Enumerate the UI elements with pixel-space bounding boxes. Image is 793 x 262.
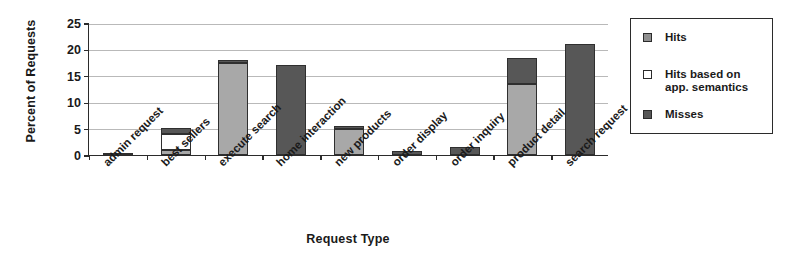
legend-item: Hits (643, 31, 687, 44)
legend-item: Misses (643, 108, 703, 121)
hits-app-semantics-swatch (643, 70, 652, 79)
x-tick-mark (262, 155, 263, 160)
hits-swatch (643, 33, 652, 42)
y-gridline (89, 50, 608, 51)
x-tick-mark (493, 155, 494, 160)
y-axis-title: Percent of Requests (24, 6, 38, 156)
legend-item: Hits based on app. semantics (643, 68, 748, 94)
y-tick-mark (84, 23, 89, 24)
legend-label: Hits (665, 31, 687, 44)
bar-chart: Percent of Requests 0510152025 Request T… (0, 0, 793, 262)
bar-segment (218, 60, 248, 63)
x-tick-mark (205, 155, 206, 160)
y-tick-mark (84, 129, 89, 130)
legend-label: Hits based on app. semantics (665, 68, 748, 94)
x-tick-mark (551, 155, 552, 160)
x-axis-title: Request Type (88, 232, 608, 246)
x-tick-mark (320, 155, 321, 160)
legend-label: Misses (665, 108, 703, 121)
y-tick-label: 15 (51, 70, 81, 84)
chart-legend: HitsHits based on app. semanticsMisses (630, 18, 773, 134)
y-tick-label: 20 (51, 43, 81, 57)
y-tick-label: 10 (51, 96, 81, 110)
y-tick-mark (84, 103, 89, 104)
y-tick-label: 25 (51, 17, 81, 31)
x-tick-mark (436, 155, 437, 160)
x-tick-mark (378, 155, 379, 160)
bar-segment (334, 126, 364, 128)
y-tick-label: 0 (51, 149, 81, 163)
x-tick-mark (89, 155, 90, 160)
y-tick-mark (84, 50, 89, 51)
y-gridline (89, 24, 608, 25)
misses-swatch (643, 110, 652, 119)
y-tick-mark (84, 76, 89, 77)
x-tick-mark (147, 155, 148, 160)
bar-segment (507, 58, 537, 84)
y-tick-label: 5 (51, 123, 81, 137)
